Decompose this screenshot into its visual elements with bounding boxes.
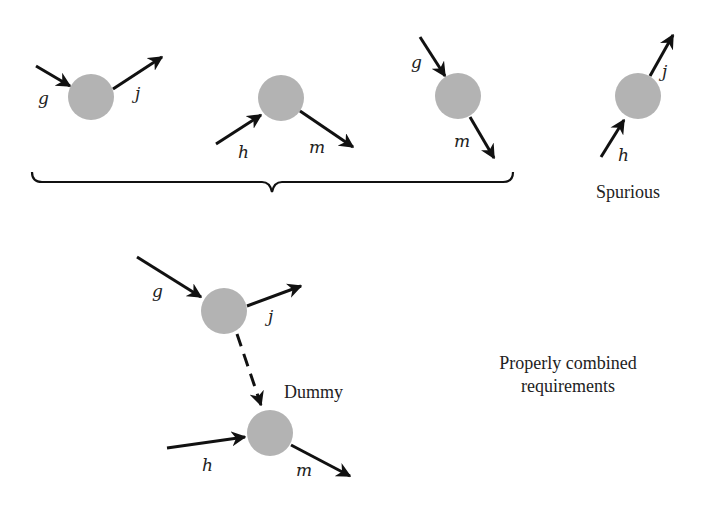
label-h: h	[618, 145, 629, 165]
label-j: j	[131, 83, 141, 103]
label-g: g	[411, 52, 422, 72]
node-circle	[615, 73, 661, 119]
caption-line-1: Properly combined	[499, 353, 636, 373]
label-j: j	[264, 306, 274, 326]
label-h: h	[202, 455, 213, 475]
node-circle-lower	[247, 410, 293, 456]
node-circle	[435, 73, 481, 119]
node-circle	[68, 74, 114, 120]
arrow-out-icon	[247, 286, 301, 306]
diagram-g-j: g j	[36, 57, 162, 120]
label-m: m	[454, 131, 470, 151]
node-circle-upper	[201, 288, 247, 334]
diagram-spurious: h j Spurious	[596, 35, 673, 202]
brace-icon	[32, 172, 513, 192]
dummy-arrow-icon	[237, 334, 261, 405]
label-m: m	[309, 137, 325, 157]
diagram-h-m: h m	[216, 75, 353, 162]
arrow-in-icon	[216, 115, 261, 144]
spurious-caption: Spurious	[596, 182, 660, 202]
diagram-canvas: g j h m g m h j Spurious g j Dummy	[0, 0, 707, 507]
arrow-in-icon	[167, 437, 245, 448]
arrow-in-icon	[137, 257, 201, 297]
dummy-label: Dummy	[284, 382, 343, 402]
arrow-out-icon	[470, 117, 494, 158]
diagram-svg: g j h m g m h j Spurious g j Dummy	[0, 0, 707, 507]
diagram-g-m: g m	[411, 37, 494, 158]
caption-line-2: requirements	[521, 376, 615, 396]
label-g: g	[152, 281, 163, 301]
arrow-out-icon	[300, 111, 353, 147]
label-j: j	[658, 61, 668, 81]
arrow-in-icon	[420, 37, 445, 76]
arrow-in-icon	[36, 66, 70, 86]
label-m: m	[296, 460, 312, 480]
diagram-combined: g j Dummy h m	[137, 257, 350, 480]
label-g: g	[38, 88, 49, 108]
node-circle	[258, 75, 304, 121]
label-h: h	[238, 142, 249, 162]
